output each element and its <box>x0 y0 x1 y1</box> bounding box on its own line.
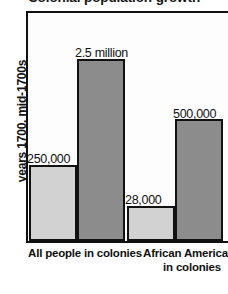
bar-value-label: 28,000 <box>125 194 161 207</box>
bar <box>127 206 175 241</box>
plot-area: 250,0002.5 million28,000500,000 <box>26 11 228 243</box>
x-axis-category-labels: All people in colonies African Americans… <box>26 247 228 294</box>
bar <box>77 59 125 241</box>
bar-value-label: 250,000 <box>27 153 70 166</box>
x-axis-category-label: African Americans in colonies <box>138 247 228 275</box>
bar-value-label: 500,000 <box>173 108 216 121</box>
bar-value-label: 2.5 million <box>75 47 128 60</box>
x-axis-category-label: All people in colonies <box>26 247 144 261</box>
bar <box>29 165 77 241</box>
bars-container: 250,0002.5 million28,000500,000 <box>28 13 228 241</box>
chart-title: Colonial population growth <box>0 0 228 5</box>
bar <box>175 119 223 241</box>
